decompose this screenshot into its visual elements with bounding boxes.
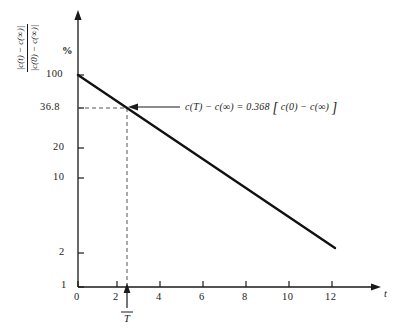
x-tick-label-8: 8 bbox=[242, 291, 248, 302]
x-tick-label-12: 12 bbox=[325, 291, 336, 302]
annotation-equation: c(T) − c(∞) = 0.368 [ c(0) − c(∞) ] bbox=[185, 100, 337, 116]
x-tick-label-4: 4 bbox=[156, 291, 162, 302]
y-tick-label-100: 100 bbox=[46, 68, 63, 79]
y-tick-label-10: 10 bbox=[53, 171, 64, 182]
y-axis-unit-symbol: % bbox=[62, 45, 73, 56]
y-tick-label-36-8: 36.8 bbox=[40, 101, 60, 112]
y-tick-label-1: 1 bbox=[61, 279, 67, 290]
x-tick-label-0: 0 bbox=[74, 291, 80, 302]
annotation-equals: = bbox=[237, 101, 244, 112]
y-axis-label-denominator: |c(0) − c(∞)| bbox=[28, 23, 39, 73]
x-tick-label-10: 10 bbox=[282, 291, 293, 302]
y-axis-label-numerator: |c(t) − c(∞)| bbox=[15, 24, 27, 72]
tau-marker-label: T bbox=[124, 313, 130, 324]
x-tick-label-6: 6 bbox=[199, 291, 205, 302]
y-tick-label-20: 20 bbox=[53, 141, 64, 152]
annotation-coefficient: 0.368 bbox=[246, 101, 270, 112]
y-axis-label-fraction: |c(t) − c(∞)| |c(0) − c(∞)| bbox=[15, 23, 39, 73]
annotation-bracket-close: ] bbox=[332, 100, 338, 115]
y-axis-label: |c(t) − c(∞)| |c(0) − c(∞)| bbox=[14, 0, 40, 108]
annotation-lhs: c(T) − c(∞) bbox=[185, 101, 234, 112]
chart-background bbox=[0, 0, 399, 330]
semilog-decay-chart bbox=[0, 0, 399, 330]
annotation-rhs: c(0) − c(∞) bbox=[281, 101, 329, 112]
x-tick-label-2: 2 bbox=[113, 291, 119, 302]
x-axis-label: t bbox=[384, 288, 387, 299]
y-tick-label-2: 2 bbox=[59, 246, 65, 257]
annotation-bracket-open: [ bbox=[272, 100, 278, 115]
